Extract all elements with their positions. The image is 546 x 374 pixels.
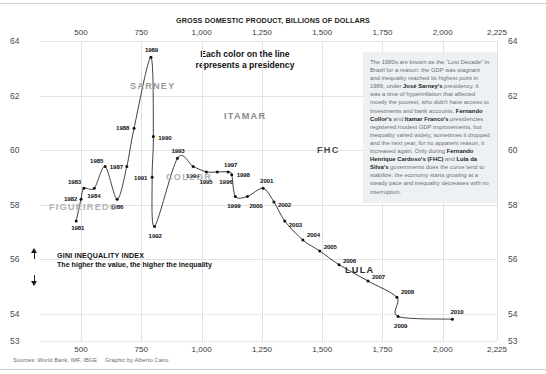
- x-tick-label: 2,000: [433, 345, 453, 354]
- year-label-1984: 1984: [87, 192, 100, 199]
- source-list: Sources: World Bank, IMF, IBGE: [13, 357, 97, 363]
- y-tick-label: 62: [508, 91, 517, 101]
- y-tick-label: 64: [10, 36, 19, 46]
- annotation-text-f: governments does the curve tend to stabi…: [370, 164, 489, 194]
- bottom-divider: [0, 369, 546, 370]
- data-point: [246, 195, 249, 198]
- data-point: [451, 318, 454, 321]
- year-label-1987: 1987: [110, 163, 123, 170]
- data-point: [301, 239, 304, 242]
- data-point: [318, 250, 321, 253]
- data-point: [272, 200, 275, 203]
- data-point: [133, 127, 136, 130]
- x-tick-label: 1,750: [372, 345, 392, 354]
- data-point: [216, 170, 219, 173]
- data-point: [227, 170, 230, 173]
- year-label-1988: 1988: [116, 124, 129, 131]
- presidency-label-fhc: FHC: [317, 145, 339, 155]
- year-label-1985: 1985: [90, 157, 103, 164]
- x-axis-title-band: GROSS DOMESTIC PRODUCT, BILLIONS OF DOLL…: [33, 15, 513, 27]
- x-tick-label: 1,500: [312, 28, 332, 37]
- data-point: [366, 280, 369, 283]
- year-label-1992: 1992: [149, 232, 162, 239]
- data-point: [395, 296, 398, 299]
- presidency-label-sarney: SARNEY: [130, 81, 176, 91]
- year-label-1999: 1999: [227, 202, 240, 209]
- year-label-2004: 2004: [307, 231, 320, 238]
- presidency-label-itamar: ITAMAR: [224, 111, 266, 121]
- data-point: [338, 263, 341, 266]
- year-label-1983: 1983: [68, 178, 81, 185]
- gini-arrow-down-stem: [34, 275, 35, 282]
- y-tick-label: 64: [508, 36, 517, 46]
- y-tick-label: 54: [508, 309, 517, 319]
- x-tick-label: 2,225: [487, 28, 507, 37]
- y-tick-label: 60: [10, 145, 19, 155]
- year-label-1996: 1996: [219, 178, 232, 185]
- source-credit: Sources: World Bank, IMF, IBGEGraphic by…: [13, 357, 168, 363]
- year-label-2002: 2002: [278, 201, 291, 208]
- annotation-bold-itamar: Itamar Franco's: [405, 116, 449, 122]
- x-tick-label: 750: [135, 28, 148, 37]
- data-point: [149, 56, 152, 59]
- x-tick-label: 1,250: [252, 345, 272, 354]
- y-tick-label: 62: [10, 91, 19, 101]
- x-axis-title: GROSS DOMESTIC PRODUCT, BILLIONS OF DOLL…: [33, 15, 513, 27]
- data-point: [192, 165, 195, 168]
- presidency-label-lula: LULA: [345, 265, 374, 275]
- gridline-vertical: [497, 41, 498, 341]
- year-label-2003: 2003: [289, 221, 302, 228]
- x-tick-label: 1,750: [372, 28, 392, 37]
- data-point: [153, 225, 156, 228]
- data-point: [262, 187, 265, 190]
- year-label-1989: 1989: [145, 46, 158, 53]
- data-point: [151, 176, 154, 179]
- presidency-label-collor: COLLOR: [166, 172, 212, 182]
- data-point: [104, 165, 107, 168]
- presidency-label-figueiredo: FIGUEIREDO: [49, 202, 118, 212]
- data-point: [80, 198, 83, 201]
- annotation-textbox: The 1980s are known as the “Lost Decade”…: [363, 52, 497, 203]
- year-label-2006: 2006: [343, 257, 356, 264]
- year-label-1997: 1997: [224, 161, 237, 168]
- year-label-2008: 2008: [401, 288, 414, 295]
- data-point: [125, 165, 128, 168]
- annotation-bold-sarney: José Sarney's: [403, 83, 442, 89]
- annotation-text-c: and: [392, 116, 405, 122]
- year-label-1998: 1998: [237, 171, 250, 178]
- x-tick-label: 1,250: [252, 28, 272, 37]
- data-point: [176, 157, 179, 160]
- year-label-1993: 1993: [172, 147, 185, 154]
- annotation-text-e: and: [443, 156, 456, 162]
- year-label-2009: 2009: [394, 322, 407, 329]
- year-label-2010: 2010: [450, 308, 463, 315]
- data-point: [116, 198, 119, 201]
- year-label-2000: 2000: [249, 202, 262, 209]
- y-tick-label: 58: [10, 200, 19, 210]
- y-tick-label: 60: [508, 145, 517, 155]
- y-tick-label: 53: [508, 336, 517, 346]
- year-label-2001: 2001: [260, 177, 273, 184]
- year-label-1991: 1991: [134, 174, 147, 181]
- gridline-horizontal: [40, 341, 497, 342]
- data-point: [75, 220, 78, 223]
- data-point: [230, 173, 233, 176]
- year-label-1981: 1981: [71, 224, 84, 231]
- year-label-1990: 1990: [158, 134, 171, 141]
- gini-callout-title: GINI INEQUALITY INDEX: [57, 252, 287, 260]
- y-tick-label: 53: [10, 336, 19, 346]
- infographic-root: GROSS DOMESTIC PRODUCT, BILLIONS OF DOLL…: [0, 0, 546, 374]
- y-tick-label: 58: [508, 200, 517, 210]
- data-point: [397, 315, 400, 318]
- gini-callout: GINI INEQUALITY INDEX The higher the val…: [57, 252, 287, 269]
- x-tick-label: 1,500: [312, 345, 332, 354]
- x-tick-label: 2,000: [433, 28, 453, 37]
- data-point: [234, 195, 237, 198]
- data-point: [152, 135, 155, 138]
- y-tick-label: 56: [508, 254, 517, 264]
- data-point: [93, 187, 96, 190]
- y-tick-label: 54: [10, 309, 19, 319]
- gini-arrow-up-stem: [34, 252, 35, 259]
- year-label-2005: 2005: [324, 243, 337, 250]
- y-tick-label: 56: [10, 254, 19, 264]
